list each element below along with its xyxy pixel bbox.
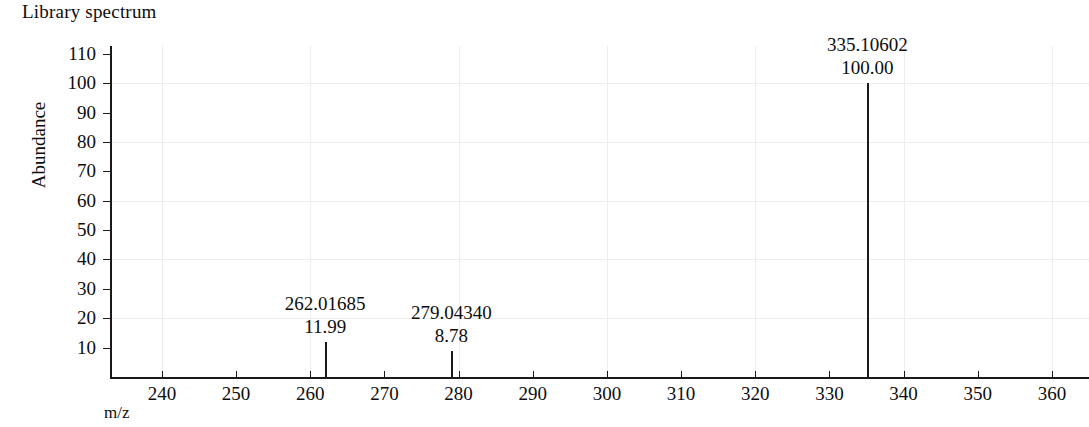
spectrum-figure: Library spectrum Abundance m/z 102030405… <box>0 0 1089 427</box>
x-axis-tick <box>904 371 905 379</box>
y-axis-line <box>110 46 112 379</box>
y-axis-tick-label: 110 <box>50 44 96 63</box>
y-axis-tick-label: 80 <box>50 132 96 151</box>
peak-stem <box>325 342 327 377</box>
y-axis-tick <box>103 54 112 55</box>
x-axis-tick <box>978 371 979 379</box>
x-axis-tick-label: 360 <box>1017 384 1087 404</box>
x-axis-tick-label: 280 <box>424 384 494 404</box>
y-axis-tick-label: 90 <box>50 103 96 122</box>
x-axis-tick-label: 330 <box>794 384 864 404</box>
y-axis-title: Abundance <box>29 85 49 205</box>
x-axis-tick <box>829 371 830 379</box>
peak-label: 335.10602100.00 <box>792 33 942 79</box>
peak-stem <box>451 351 453 377</box>
gridline-vertical <box>607 46 608 378</box>
x-axis-tick-label: 340 <box>869 384 939 404</box>
page-title: Library spectrum <box>22 1 157 23</box>
gridline-vertical <box>904 46 905 378</box>
gridline-vertical <box>162 46 163 378</box>
x-axis-tick <box>162 371 163 379</box>
y-axis-tick-label: 20 <box>50 308 96 327</box>
x-axis-tick <box>1052 371 1053 379</box>
y-axis-tick <box>103 83 112 84</box>
gridline-horizontal <box>110 83 1089 84</box>
x-axis-tick-label: 320 <box>720 384 790 404</box>
x-axis-tick-label: 300 <box>572 384 642 404</box>
peak-mz-value: 335.10602 <box>792 33 942 56</box>
gridline-vertical <box>1052 46 1053 378</box>
x-axis-tick <box>755 371 756 379</box>
x-axis-tick-label: 350 <box>943 384 1013 404</box>
x-axis-tick <box>310 371 311 379</box>
y-axis-tick <box>103 142 112 143</box>
x-axis-tick <box>236 371 237 379</box>
x-axis-tick <box>459 371 460 379</box>
y-axis-tick-label: 50 <box>50 220 96 239</box>
gridline-horizontal <box>110 142 1089 143</box>
x-axis-tick-label: 250 <box>201 384 271 404</box>
x-axis-tick <box>533 371 534 379</box>
x-axis-tick <box>607 371 608 379</box>
x-axis-tick-label: 240 <box>127 384 197 404</box>
y-axis-tick <box>103 113 112 114</box>
x-axis-tick-label: 310 <box>646 384 716 404</box>
x-axis-tick-label: 270 <box>349 384 419 404</box>
y-axis-tick <box>103 289 112 290</box>
x-axis-tick <box>384 371 385 379</box>
y-axis-tick-label: 100 <box>50 73 96 92</box>
y-axis-tick <box>103 259 112 260</box>
y-axis-tick <box>103 348 112 349</box>
gridline-horizontal <box>110 259 1089 260</box>
x-axis-tick-label: 290 <box>498 384 568 404</box>
y-axis-tick <box>103 318 112 319</box>
gridline-vertical <box>755 46 756 378</box>
x-axis-tick-label: 260 <box>275 384 345 404</box>
gridline-horizontal <box>110 201 1089 202</box>
peak-label: 279.043408.78 <box>376 301 526 347</box>
y-axis-tick-label: 60 <box>50 191 96 210</box>
y-axis-tick-label: 30 <box>50 279 96 298</box>
y-axis-tick-label: 40 <box>50 249 96 268</box>
y-axis-tick <box>103 171 112 172</box>
y-axis-tick-label: 70 <box>50 161 96 180</box>
peak-intensity-value: 8.78 <box>376 324 526 347</box>
y-axis-tick <box>103 230 112 231</box>
y-axis-tick-label: 10 <box>50 338 96 357</box>
y-axis-tick <box>103 201 112 202</box>
peak-stem <box>867 83 869 377</box>
peak-intensity-value: 100.00 <box>792 56 942 79</box>
peak-mz-value: 279.04340 <box>376 301 526 324</box>
x-axis-title: m/z <box>104 404 130 422</box>
x-axis-line <box>110 377 1089 379</box>
x-axis-tick <box>681 371 682 379</box>
